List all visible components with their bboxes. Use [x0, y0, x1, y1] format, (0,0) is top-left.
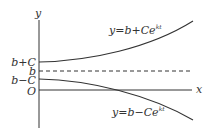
origin-label: O: [27, 85, 36, 98]
y-axis-label: y: [34, 7, 42, 20]
diagram-canvas: y x b+C b b−C O y=b+Cekt y=b−Cekt: [0, 0, 212, 135]
lower-curve-equation: y=b−Cekt: [111, 105, 165, 119]
upper-curve-equation: y=b+Cekt: [108, 23, 162, 37]
x-axis-label: x: [196, 83, 203, 96]
